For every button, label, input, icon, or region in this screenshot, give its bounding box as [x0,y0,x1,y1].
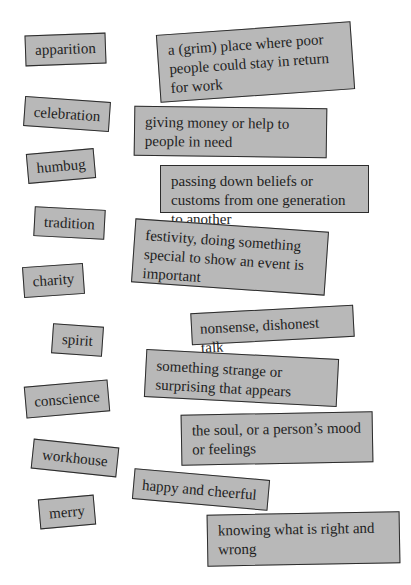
word-label: merry [48,501,85,523]
word-label: conscience [33,387,100,412]
word-card-merry[interactable]: merry [38,495,96,530]
definition-card-apparition-meaning[interactable]: something strange or surprising that app… [144,349,339,407]
word-label: workhouse [41,445,108,471]
word-label: celebration [33,102,101,126]
definition-text: giving money or help to people in need [145,114,290,150]
definition-text: passing down beliefs or customs from one… [171,173,346,227]
definition-text: festivity, doing something special to sh… [142,227,304,285]
word-label: charity [32,270,75,292]
definition-card-charity-meaning[interactable]: giving money or help to people in need [134,106,328,159]
definition-card-conscience-meaning[interactable]: knowing what is right and wrong [207,511,401,566]
word-label: spirit [61,329,93,350]
definition-card-humbug-meaning[interactable]: nonsense, dishonest talk [190,305,354,345]
definition-card-spirit-meaning[interactable]: the soul, or a person’s mood or feelings [181,411,374,465]
definition-card-celebration-meaning[interactable]: festivity, doing something special to sh… [131,218,329,295]
definition-card-tradition-meaning[interactable]: passing down beliefs or customs from one… [160,165,369,213]
word-label: humbug [36,154,87,177]
definition-text: knowing what is right and wrong [218,520,375,558]
definition-text: nonsense, dishonest talk [200,315,320,356]
word-card-conscience[interactable]: conscience [24,379,110,418]
word-label: apparition [35,39,96,60]
word-card-celebration[interactable]: celebration [23,96,111,132]
definition-text: a (grim) place where poor people could s… [167,31,329,96]
word-card-charity[interactable]: charity [22,263,85,298]
definition-text: something strange or surprising that app… [155,358,291,400]
word-card-apparition[interactable]: apparition [24,33,106,67]
word-label: tradition [44,212,96,234]
word-card-humbug[interactable]: humbug [26,148,96,184]
word-card-spirit[interactable]: spirit [51,323,104,356]
word-card-workhouse[interactable]: workhouse [31,439,120,478]
cut-off-text-fragment [40,0,340,3]
definition-card-workhouse-meaning[interactable]: a (grim) place where poor people could s… [156,21,355,102]
definition-card-merry-meaning[interactable]: happy and cheerful [132,468,270,511]
word-card-tradition[interactable]: tradition [33,206,105,240]
definition-text: the soul, or a person’s mood or feelings [192,420,361,458]
definition-text: happy and cheerful [141,477,257,503]
